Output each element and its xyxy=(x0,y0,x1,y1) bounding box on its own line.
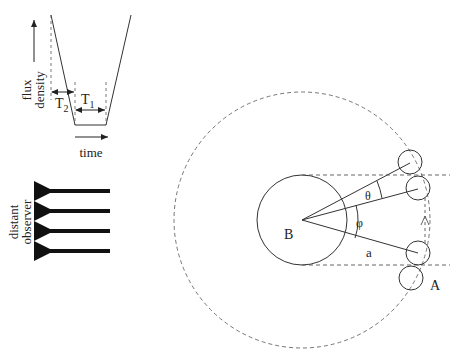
label-separation-a: a xyxy=(366,245,372,260)
orbit-geometry: B A θ φ a xyxy=(174,92,450,348)
t2-label: T2 xyxy=(55,96,69,114)
secondary-star-pos-1 xyxy=(398,150,422,174)
light-curve: T2 T1 time flux density xyxy=(19,15,131,160)
label-theta: θ xyxy=(365,189,371,203)
eclipse-geometry-diagram: T2 T1 time flux density distant observer… xyxy=(0,0,450,358)
observer-label: observer xyxy=(19,199,34,244)
theta-arc xyxy=(377,181,382,198)
label-b: B xyxy=(284,227,293,242)
observer-arrows: distant observer xyxy=(6,191,110,251)
density-label: density xyxy=(32,71,47,109)
label-phi: φ xyxy=(356,216,363,230)
label-a: A xyxy=(430,278,441,293)
time-label: time xyxy=(79,145,102,160)
radius-line-1 xyxy=(302,163,410,220)
t1-label: T1 xyxy=(81,92,95,110)
